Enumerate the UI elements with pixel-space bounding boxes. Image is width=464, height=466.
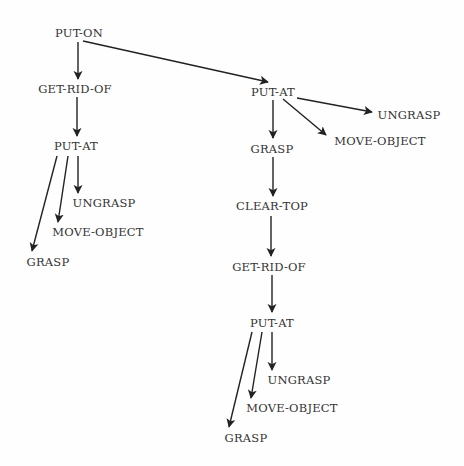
arrow-put_on-to-put_at_2 <box>83 41 268 82</box>
diagram-canvas: PUT-ONGET-RID-OFPUT-ATUNGRASPMOVE-OBJECT… <box>0 0 464 466</box>
arrow-put_at_2-to-move_object_2 <box>283 99 326 135</box>
node-get-rid-of-2: GET-RID-OF <box>232 260 306 274</box>
node-grasp-3: GRASP <box>225 431 268 445</box>
arrow-put_at_1-to-move_object_1 <box>58 156 68 222</box>
arrow-put_at_2-to-ungrasp_2 <box>297 98 372 112</box>
node-put-at-2: PUT-AT <box>251 85 295 99</box>
node-ungrasp-2: UNGRASP <box>378 108 441 122</box>
node-put-on: PUT-ON <box>55 26 103 40</box>
node-grasp-1: GRASP <box>27 255 70 269</box>
node-ungrasp-1: UNGRASP <box>73 196 136 210</box>
node-ungrasp-3: UNGRASP <box>268 373 331 387</box>
node-clear-top: CLEAR-TOP <box>236 199 308 213</box>
node-put-at-1: PUT-AT <box>54 139 98 153</box>
node-grasp-2: GRASP <box>251 142 294 156</box>
node-move-object-3: MOVE-OBJECT <box>246 401 337 415</box>
node-get-rid-of-1: GET-RID-OF <box>38 82 112 96</box>
node-put-at-3: PUT-AT <box>250 316 294 330</box>
node-move-object-2: MOVE-OBJECT <box>334 134 425 148</box>
node-move-object-1: MOVE-OBJECT <box>52 225 143 239</box>
arrow-put_at_3-to-move_object_3 <box>251 332 262 398</box>
